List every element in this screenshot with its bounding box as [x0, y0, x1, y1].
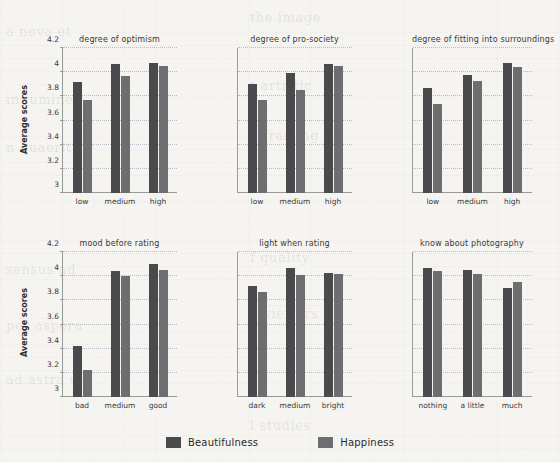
bar-group: good — [149, 252, 168, 397]
bar-groups: badmediumgood — [63, 252, 177, 397]
bar-happiness — [159, 66, 168, 193]
y-tick-label: 4 — [54, 59, 59, 68]
bar-groups: lowmediumhigh — [63, 48, 177, 193]
bar-happiness — [258, 292, 267, 397]
bar-happiness — [121, 76, 130, 193]
x-category-label: medium — [457, 197, 488, 206]
x-category-label: much — [502, 401, 523, 410]
bar-happiness — [334, 66, 343, 193]
plot-area: lowmediumhigh — [237, 48, 352, 193]
bar-happiness — [296, 90, 305, 193]
bar-beautifulness — [324, 273, 333, 397]
y-tick-label: 3.4 — [47, 335, 59, 344]
bar-beautifulness — [248, 84, 257, 193]
y-axis-label-top: Average scores — [20, 80, 29, 160]
legend-label: Beautifulness — [188, 437, 258, 448]
legend-swatch-icon — [318, 437, 333, 448]
panel-title: degree of optimism — [62, 35, 177, 44]
y-axis-label-bottom: Average scores — [20, 283, 29, 363]
bar-happiness — [83, 370, 92, 397]
y-tick-label: 3.6 — [47, 311, 59, 320]
bar-beautifulness — [423, 268, 432, 397]
bar-beautifulness — [423, 88, 432, 193]
panel-title: know about photography — [412, 239, 532, 248]
bar-group: bad — [73, 252, 92, 397]
x-category-label: nothing — [419, 401, 448, 410]
figure-multipanel-bar-chart: Average scores Average scores degree of … — [0, 0, 560, 462]
x-category-label: low — [76, 197, 89, 206]
bar-happiness — [258, 100, 267, 193]
bar-beautifulness — [149, 63, 158, 194]
bar-group: dark — [248, 252, 267, 397]
bar-beautifulness — [111, 64, 120, 193]
y-tick-label: 3.8 — [47, 83, 59, 92]
legend-swatch-icon — [166, 437, 181, 448]
legend-item-happiness: Happiness — [318, 437, 394, 448]
bar-groups: lowmediumhigh — [238, 48, 352, 193]
bar-happiness — [159, 270, 168, 397]
y-tick-label: 4.2 — [47, 239, 59, 248]
y-tick-label: 3.8 — [47, 287, 59, 296]
plot-area: darkmediumbright — [237, 252, 352, 397]
x-category-label: medium — [105, 401, 136, 410]
x-category-label: medium — [105, 197, 136, 206]
legend-label: Happiness — [340, 437, 394, 448]
x-category-label: medium — [280, 197, 311, 206]
bar-group: medium — [111, 252, 130, 397]
bar-group: high — [324, 48, 343, 193]
bar-beautifulness — [73, 346, 82, 397]
panel-know-about-photography: know about photographynothinga littlemuc… — [412, 252, 532, 397]
bar-beautifulness — [324, 64, 333, 193]
x-category-label: low — [251, 197, 264, 206]
bar-happiness — [121, 276, 130, 397]
y-tick-label: 4.2 — [47, 35, 59, 44]
bar-groups: darkmediumbright — [238, 252, 352, 397]
bar-beautifulness — [463, 75, 472, 193]
bar-group: low — [73, 48, 92, 193]
bar-happiness — [433, 104, 442, 193]
bar-beautifulness — [503, 288, 512, 397]
bar-groups: lowmediumhigh — [413, 48, 532, 193]
bar-happiness — [83, 100, 92, 193]
bar-beautifulness — [503, 63, 512, 194]
bar-group: medium — [286, 48, 305, 193]
bar-group: high — [149, 48, 168, 193]
bar-happiness — [296, 275, 305, 397]
x-category-label: bad — [75, 401, 89, 410]
x-category-label: low — [426, 197, 439, 206]
panel-title: degree of pro-society — [237, 35, 352, 44]
bar-group: medium — [111, 48, 130, 193]
bar-group: medium — [463, 48, 482, 193]
panel-degree-of-optimism: degree of optimism33.23.43.63.844.2lowme… — [62, 48, 177, 193]
plot-area: lowmediumhigh — [412, 48, 532, 193]
bar-group: medium — [286, 252, 305, 397]
bar-happiness — [334, 274, 343, 397]
plot-area: 33.23.43.63.844.2badmediumgood — [62, 252, 177, 397]
bar-beautifulness — [286, 73, 295, 193]
x-category-label: a little — [461, 401, 485, 410]
chart-legend: Beautifulness Happiness — [0, 437, 560, 448]
bar-beautifulness — [463, 270, 472, 397]
y-tick-label: 3.2 — [47, 359, 59, 368]
panel-degree-of-fitting-into-surroundings: degree of fitting into surroundingslowme… — [412, 48, 532, 193]
y-tick-label: 3 — [54, 180, 59, 189]
y-tick-label: 3.4 — [47, 131, 59, 140]
x-category-label: high — [325, 197, 341, 206]
panel-mood-before-rating: mood before rating33.23.43.63.844.2badme… — [62, 252, 177, 397]
bar-group: much — [503, 252, 522, 397]
panel-light-when-rating: light when ratingdarkmediumbright — [237, 252, 352, 397]
panel-title: mood before rating — [62, 239, 177, 248]
x-category-label: high — [150, 197, 166, 206]
y-tick-label: 3.2 — [47, 155, 59, 164]
bar-happiness — [513, 67, 522, 193]
bar-beautifulness — [248, 286, 257, 397]
bar-beautifulness — [286, 268, 295, 397]
bar-happiness — [513, 282, 522, 397]
bar-group: high — [503, 48, 522, 193]
bar-group: low — [248, 48, 267, 193]
panel-title: degree of fitting into surroundings — [412, 35, 532, 44]
bar-beautifulness — [149, 264, 158, 397]
x-category-label: medium — [280, 401, 311, 410]
bar-happiness — [433, 271, 442, 397]
x-category-label: high — [504, 197, 520, 206]
